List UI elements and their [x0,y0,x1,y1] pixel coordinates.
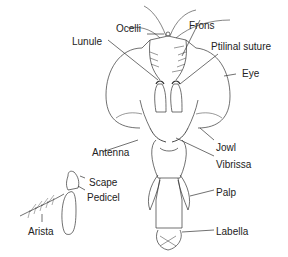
label-ptilinal-suture: Ptilinal suture [211,41,271,52]
left-eye [106,48,142,128]
label-pedicel: Pedicel [87,192,120,203]
label-arista: Arista [28,226,54,237]
label-eye: Eye [242,68,259,79]
antenna-detail [20,171,85,234]
label-lunule: Lunule [72,36,102,47]
label-scape: Scape [89,177,117,188]
label-vibrissa: Vibrissa [216,159,251,170]
label-ocelli: Ocelli [116,23,141,34]
label-frons: Frons [189,20,215,31]
ocelli-dot [166,32,170,36]
fly-head-diagram [0,0,288,257]
right-eye [196,48,230,128]
label-jowl: Jowl [216,142,236,153]
label-antenna: Antenna [92,147,129,158]
label-palp: Palp [216,187,236,198]
label-labella: Labella [216,226,248,237]
